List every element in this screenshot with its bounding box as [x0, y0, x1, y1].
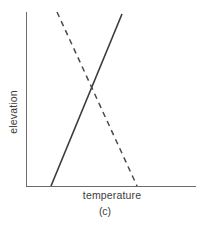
line-chart-plot: temperature elevation (c) — [0, 0, 203, 229]
x-axis-label: temperature — [83, 189, 141, 201]
series-solid-profile — [51, 14, 122, 186]
y-axis-label: elevation — [7, 90, 19, 133]
figure-container: temperature elevation (c) — [0, 0, 203, 229]
series-dashed-profile — [57, 12, 137, 186]
panel-label: (c) — [99, 205, 111, 217]
